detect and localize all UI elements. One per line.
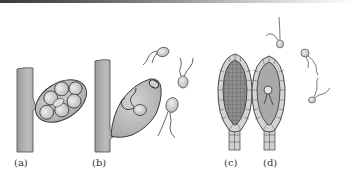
zoospore-icon (158, 96, 180, 138)
panel-label-c: (c) (224, 157, 237, 168)
sperm-icon (301, 49, 318, 75)
sporangium-open-icon (111, 78, 161, 137)
reproduction-diagram (0, 0, 355, 179)
panel-label-d: (d) (263, 157, 277, 168)
antheridium-icon (218, 54, 252, 150)
panel-label-b: (b) (92, 157, 106, 168)
panel-c (218, 54, 252, 150)
zoospore-icon (143, 46, 170, 65)
stalk-icon (95, 60, 116, 152)
archegonium-icon (252, 56, 285, 150)
sperm-icon (309, 78, 331, 103)
sperm-icon (266, 17, 284, 48)
zoospore-icon (178, 58, 193, 88)
panel-b (95, 46, 193, 152)
panel-d (252, 17, 330, 150)
panel-a (17, 68, 94, 152)
sporangium-icon (28, 71, 95, 131)
panel-label-a: (a) (14, 157, 28, 168)
